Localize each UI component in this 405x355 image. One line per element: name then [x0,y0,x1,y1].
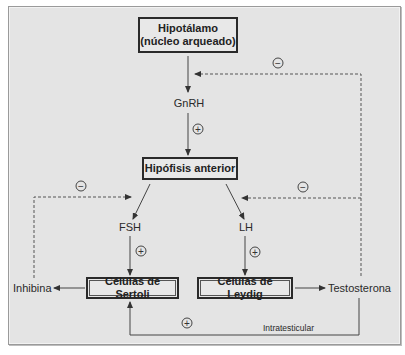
pituitary-box: Hipófisis anterior [142,157,238,180]
inhibin-label: Inhibina [13,282,52,294]
testosterone-label: Testosterona [328,282,391,294]
hypothalamus-box: Hipotálamo (núcleo arqueado) [138,17,238,53]
intratesticular-label: Intratesticular [263,323,314,333]
minus-sign-pituitary-right: − [298,182,309,193]
pituitary-label: Hipófisis anterior [145,162,235,175]
hypothalamus-sublabel: (núcleo arqueado) [140,35,235,48]
plus-sign-intratesticular: + [182,318,193,329]
lh-label: LH [239,221,253,233]
minus-sign-hypothalamus: − [273,58,284,69]
plus-sign-gnrh: + [193,124,204,135]
hypothalamus-label: Hipotálamo [158,22,218,35]
leydig-label: Células de Leydig [199,275,291,301]
gnrh-label: GnRH [174,97,205,109]
sertoli-box: Células de Sertoli [86,277,179,299]
plus-sign-lh: + [250,247,261,258]
plus-sign-fsh: + [136,246,147,257]
fsh-label: FSH [119,221,141,233]
sertoli-label: Células de Sertoli [88,275,177,301]
minus-sign-pituitary-left: − [76,181,87,192]
leydig-box: Células de Leydig [197,277,293,299]
